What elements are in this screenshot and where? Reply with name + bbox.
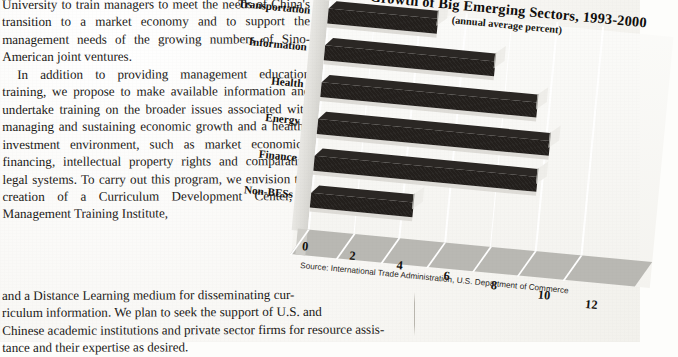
- wide-line-3: Chinese academic institutions and privat…: [2, 320, 422, 339]
- category-label-energy: Energy: [265, 111, 301, 126]
- category-label-health: Health: [271, 74, 304, 89]
- wide-line-4: tance and their expertise as desired.: [2, 338, 422, 357]
- x-tick-label-12: 12: [584, 297, 598, 313]
- category-label-non-bess: Non-BESs: [244, 183, 294, 200]
- x-tick-label-2: 2: [349, 249, 357, 265]
- bar-chart: TransportationInformationHealthEnergyFin…: [223, 0, 664, 339]
- category-label-finance: Finance: [258, 148, 297, 164]
- category-label-information: Information: [248, 35, 307, 52]
